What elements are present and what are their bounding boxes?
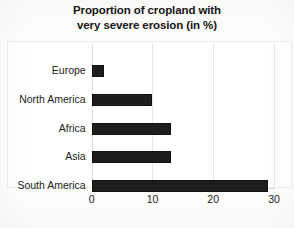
plot-area: Europe North America Africa Asia South A… <box>92 44 274 188</box>
chart-screenshot: Proportion of cropland with very severe … <box>0 0 294 228</box>
bar-asia <box>92 151 171 163</box>
bar-africa <box>92 123 171 135</box>
category-label-asia: Asia <box>0 149 86 163</box>
bar-south-america <box>92 180 268 192</box>
bar-series: Europe North America Africa Asia South A… <box>92 44 274 188</box>
x-tick-label-10: 10 <box>132 193 172 205</box>
bar-row: Europe <box>92 57 274 86</box>
x-tick-label-0: 0 <box>72 193 112 205</box>
bar-row: South America <box>92 172 274 201</box>
bar-row: Africa <box>92 115 274 144</box>
category-label-africa: Africa <box>0 121 86 135</box>
category-label-europe: Europe <box>0 63 86 77</box>
bar-row: Asia <box>92 143 274 172</box>
x-tick-label-20: 20 <box>193 193 233 205</box>
bar-europe <box>92 65 104 77</box>
bar-row: North America <box>92 86 274 115</box>
chart-title: Proportion of cropland with very severe … <box>0 3 294 33</box>
category-label-south-america: South America <box>0 178 86 192</box>
bar-north-america <box>92 94 153 106</box>
gridline-30 <box>274 44 275 188</box>
category-label-north-america: North America <box>0 92 86 106</box>
chart-title-line-1: Proportion of cropland with <box>0 3 294 18</box>
chart-title-line-2: very severe erosion (in %) <box>0 18 294 33</box>
x-tick-label-30: 30 <box>254 193 294 205</box>
